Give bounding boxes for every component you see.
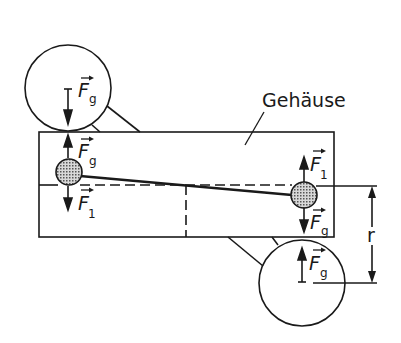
arrow-down-icon [64,110,72,124]
arrow-up-icon [64,135,72,147]
svg-text:g: g [89,154,97,168]
force-label-bottom: F g [309,248,328,281]
dimension-r-label: r [367,224,375,246]
force-diagram: r Gehäuse F g F g [0,0,401,343]
right-ball [291,182,317,208]
svg-text:g: g [321,224,329,238]
svg-text:1: 1 [88,207,96,221]
arrow-down-icon [64,198,72,210]
bottom-strut-outer [228,237,263,266]
force-label-left-up: F g [78,137,97,169]
force-label-right-down: F g [310,208,329,239]
arrow-up-icon [300,157,308,169]
arrow-up-icon [298,248,306,260]
force-label-right-up: F 1 [310,149,328,183]
force-label-left-down: F 1 [78,188,96,222]
svg-text:g: g [89,92,97,106]
housing-label: Gehäuse [262,89,346,111]
arrow-down-icon [300,220,308,232]
bottom-strut-inner [272,237,278,245]
housing-leader-line [245,112,264,145]
left-ball [56,159,82,185]
top-strut-outer [107,106,140,132]
force-label-top: F g [78,76,97,107]
svg-text:1: 1 [320,168,328,182]
top-strut-inner [92,125,100,132]
svg-text:g: g [320,266,328,280]
